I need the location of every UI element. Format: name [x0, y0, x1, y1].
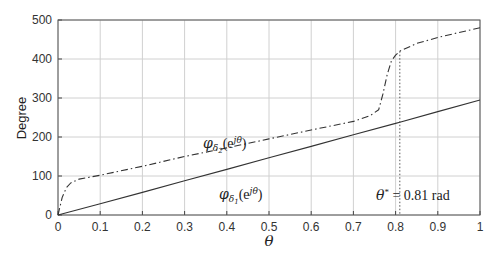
annotation-phi-delta1: φδ1(ejθ)	[219, 186, 263, 206]
x-tick-label: 0.7	[345, 220, 362, 234]
x-axis-label: θ	[264, 232, 273, 250]
y-tick-label: 200	[32, 130, 52, 144]
x-tick-label: 0.1	[92, 220, 109, 234]
y-tick-label: 0	[45, 208, 52, 222]
y-tick-label: 100	[32, 169, 52, 183]
y-tick-label: 500	[32, 13, 52, 27]
x-tick-label: 0	[55, 220, 62, 234]
y-axis-label: Degree	[14, 97, 29, 140]
x-tick-label: 0.3	[176, 220, 193, 234]
svg-text:θ* = 0.81 rad: θ* = 0.81 rad	[376, 187, 450, 203]
x-tick-label: 0.9	[429, 220, 446, 234]
x-tick-label: 0.8	[387, 220, 404, 234]
x-tick-label: 0.6	[303, 220, 320, 234]
svg-text:φδ1(ejθ): φδ1(ejθ)	[219, 186, 263, 206]
phase-degree-chart: 00.10.20.30.40.50.60.70.80.9101002003004…	[0, 0, 498, 258]
x-tick-label: 0.2	[134, 220, 151, 234]
x-tick-label: 0.4	[218, 220, 235, 234]
x-tick-label: 1	[477, 220, 484, 234]
y-tick-label: 300	[32, 91, 52, 105]
y-tick-label: 400	[32, 52, 52, 66]
annotation-theta-star: θ* = 0.81 rad	[376, 187, 450, 203]
